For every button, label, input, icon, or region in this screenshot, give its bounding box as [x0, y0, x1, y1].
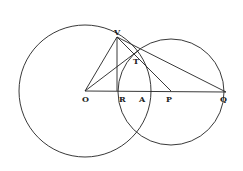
label-O: O: [82, 94, 89, 104]
segment-OT: [85, 50, 139, 91]
geometry-diagram: V T O R A P Q: [0, 0, 243, 171]
label-P: P: [166, 94, 172, 104]
segment-OV: [85, 37, 117, 91]
label-R: R: [119, 94, 126, 104]
label-V: V: [113, 27, 121, 37]
segment-OQ: [85, 91, 226, 92]
label-T: T: [133, 56, 139, 66]
segment-VP: [117, 37, 171, 91]
label-Q: Q: [220, 94, 227, 104]
label-A: A: [138, 94, 146, 104]
